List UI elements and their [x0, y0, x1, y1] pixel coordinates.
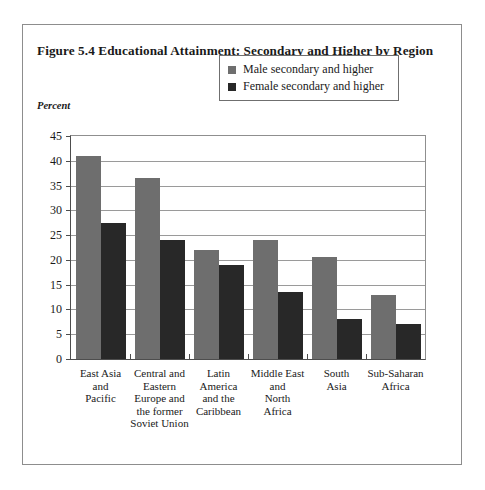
y-axis-tick-label: 0 — [40, 352, 62, 367]
legend-swatch-female-icon — [228, 83, 236, 91]
bar-male — [76, 156, 101, 359]
y-axis-tick — [66, 359, 71, 360]
bar-female — [337, 319, 362, 359]
y-axis-tick-label: 10 — [40, 302, 62, 317]
legend-item: Female secondary and higher — [228, 78, 384, 95]
y-axis-tick — [66, 260, 71, 261]
x-axis-group-separator — [189, 354, 190, 359]
y-axis-tick-label: 5 — [40, 327, 62, 342]
x-axis-group-separator — [307, 354, 308, 359]
gridline — [71, 161, 425, 162]
y-axis-tick — [66, 334, 71, 335]
y-axis-tick — [66, 210, 71, 211]
y-axis-tick-label: 30 — [40, 203, 62, 218]
y-axis-tick-label: 40 — [40, 153, 62, 168]
bar-female — [396, 324, 421, 359]
chart-legend: Male secondary and higherFemale secondar… — [219, 55, 399, 101]
gridline — [71, 210, 425, 211]
bar-male — [253, 240, 278, 359]
bar-male — [194, 250, 219, 359]
x-axis-group-separator — [248, 354, 249, 359]
y-axis-unit-label: Percent — [37, 100, 70, 111]
y-axis-tick — [66, 309, 71, 310]
y-axis-tick-label: 45 — [40, 129, 62, 144]
x-axis-group-separator — [130, 354, 131, 359]
y-axis-tick-label: 15 — [40, 277, 62, 292]
y-axis-tick — [66, 136, 71, 137]
y-axis-tick-label: 20 — [40, 252, 62, 267]
bar-female — [278, 292, 303, 359]
bar-male — [135, 178, 160, 359]
legend-swatch-male-icon — [228, 66, 236, 74]
legend-label: Female secondary and higher — [243, 79, 384, 94]
x-axis-category-label: Sub-Saharan Africa — [357, 367, 434, 392]
plot-area: 051015202530354045 East Asia and Pacific… — [70, 135, 426, 360]
y-axis-tick — [66, 285, 71, 286]
y-axis-tick-label: 35 — [40, 178, 62, 193]
bar-female — [101, 223, 126, 359]
y-axis-tick — [66, 235, 71, 236]
figure-container: Figure 5.4 Educational Attainment: Secon… — [22, 24, 462, 465]
x-axis-group-separator — [366, 354, 367, 359]
legend-item: Male secondary and higher — [228, 61, 384, 78]
gridline — [71, 186, 425, 187]
bar-male — [312, 257, 337, 359]
bar-female — [160, 240, 185, 359]
bar-female — [219, 265, 244, 359]
legend-label: Male secondary and higher — [243, 62, 373, 77]
y-axis-tick — [66, 161, 71, 162]
y-axis-tick-label: 25 — [40, 228, 62, 243]
y-axis-tick — [66, 186, 71, 187]
bar-male — [371, 295, 396, 359]
